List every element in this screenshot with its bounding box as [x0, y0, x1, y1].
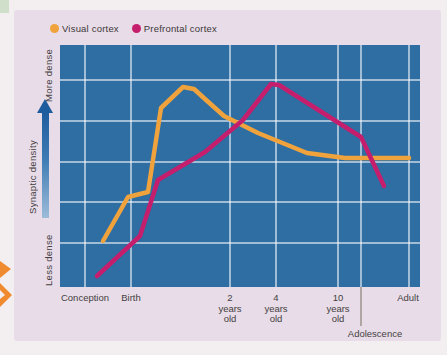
x-axis-label: Conception	[61, 293, 109, 304]
x-axis-label: Adult	[397, 293, 419, 304]
adolescence-annotation-label: Adolescence	[348, 328, 402, 339]
page-margin-decoration-icon	[0, 258, 14, 313]
x-axis-label: Birth	[121, 293, 141, 304]
plot-area	[60, 45, 420, 287]
figure-page: Visual cortex Prefrontal cortex More den…	[0, 0, 447, 355]
x-axis-label: 4 years old	[264, 293, 287, 325]
x-axis-label: 10 years old	[326, 293, 349, 325]
x-axis-label: 2 years old	[218, 293, 241, 325]
